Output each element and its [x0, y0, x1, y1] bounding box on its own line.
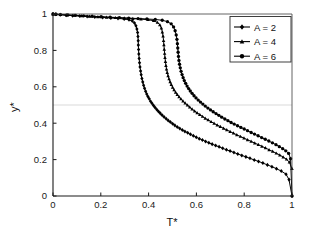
marker-circle: [180, 73, 183, 76]
marker-circle: [108, 16, 111, 19]
marker-circle: [267, 139, 270, 142]
marker-circle: [136, 17, 139, 20]
legend-items: A = 2A = 4A = 6: [234, 22, 276, 62]
marker-circle: [91, 15, 94, 18]
marker-circle: [176, 51, 179, 54]
marker-circle: [243, 127, 246, 130]
marker-circle: [170, 22, 173, 25]
marker-circle: [179, 70, 182, 73]
legend: A = 2A = 4A = 6: [230, 17, 291, 63]
marker-circle: [223, 117, 226, 120]
y-tick-label-5: 1: [42, 8, 47, 19]
marker-circle: [118, 16, 121, 19]
marker-circle: [179, 66, 182, 69]
figure-container: 00.20.40.60.81 00.20.40.60.81 T* y* A = …: [0, 0, 311, 240]
marker-circle: [172, 25, 175, 28]
marker-circle: [161, 19, 164, 22]
marker-circle: [226, 119, 229, 122]
marker-circle: [166, 20, 169, 23]
marker-circle: [99, 15, 102, 18]
marker-circle: [260, 136, 263, 139]
marker-circle: [154, 18, 157, 21]
legend-label: A = 2: [254, 22, 276, 33]
marker-circle: [284, 149, 287, 152]
x-tick-label-4: 0.8: [238, 199, 251, 210]
marker-circle: [239, 126, 242, 129]
y-tick-label-0: 0: [42, 190, 47, 201]
x-axis-tick-labels: 00.20.40.60.81: [50, 199, 294, 210]
legend-label: A = 6: [254, 51, 276, 62]
marker-circle: [59, 13, 62, 16]
marker-circle: [249, 131, 252, 134]
marker-circle: [274, 143, 277, 146]
temperature-profile-chart: 00.20.40.60.81 00.20.40.60.81 T* y* A = …: [0, 0, 311, 240]
x-tick-label-3: 0.6: [190, 199, 203, 210]
marker-circle: [175, 33, 178, 36]
x-tick-label-0: 0: [50, 199, 55, 210]
x-tick-label-5: 1: [289, 199, 294, 210]
marker-circle: [246, 129, 249, 132]
marker-circle: [175, 38, 178, 41]
marker-circle: [204, 104, 207, 107]
marker-circle: [232, 122, 235, 125]
marker-circle: [176, 46, 179, 49]
marker-circle: [236, 124, 239, 127]
x-axis-title: T*: [167, 216, 179, 228]
y-tick-label-1: 0.2: [34, 154, 47, 165]
marker-circle: [264, 138, 267, 141]
x-tick-label-1: 0.2: [94, 199, 107, 210]
marker-circle: [177, 59, 180, 62]
marker-circle: [178, 63, 181, 66]
marker-circle: [177, 55, 180, 58]
marker-circle: [287, 152, 290, 155]
x-tick-label-2: 0.4: [142, 199, 155, 210]
marker-circle: [220, 116, 223, 119]
marker-circle: [214, 112, 217, 115]
marker-circle: [271, 141, 274, 144]
marker-circle: [127, 16, 130, 19]
marker-circle: [240, 54, 244, 58]
y-tick-label-3: 0.6: [34, 81, 47, 92]
marker-circle: [281, 147, 284, 150]
y-tick-label-2: 0.4: [34, 118, 47, 129]
marker-circle: [217, 114, 220, 117]
marker-circle: [176, 42, 179, 45]
marker-circle: [256, 134, 259, 137]
marker-circle: [211, 110, 214, 113]
marker-circle: [145, 17, 148, 20]
marker-circle: [278, 145, 281, 148]
marker-circle: [181, 76, 184, 79]
legend-label: A = 4: [254, 36, 276, 47]
marker-circle: [229, 121, 232, 124]
marker-circle: [253, 132, 256, 135]
marker-circle: [173, 29, 176, 32]
marker-circle: [82, 14, 85, 17]
y-tick-label-4: 0.8: [34, 45, 47, 56]
y-axis-title: y*: [8, 101, 20, 112]
y-axis-tick-labels: 00.20.40.60.81: [34, 8, 47, 201]
